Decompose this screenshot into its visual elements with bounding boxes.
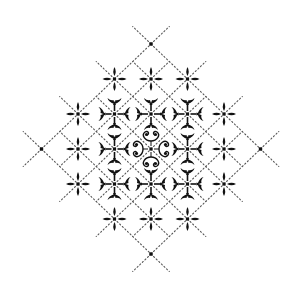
dotted-line — [96, 97, 114, 115]
dotted-line — [224, 97, 242, 115]
dotted-line — [133, 254, 151, 272]
dotted-line — [133, 27, 151, 45]
dotted-line — [261, 149, 279, 167]
dotted-line — [224, 149, 242, 167]
dotted-line — [133, 219, 151, 237]
dotted-line — [188, 97, 206, 115]
center-dot — [259, 147, 262, 150]
lattice-pattern — [0, 0, 298, 292]
dotted-line — [261, 132, 279, 150]
dotted-line — [151, 219, 169, 237]
dotted-line — [23, 132, 41, 150]
center-dot — [149, 42, 152, 45]
dotted-line — [60, 97, 78, 115]
dotted-line — [188, 62, 206, 80]
dotted-line — [151, 254, 169, 272]
center-dot — [40, 147, 43, 150]
dotted-line — [224, 132, 242, 150]
pattern-canvas: Rangoli / kolam dot-lattice pattern — [0, 0, 298, 292]
dotted-line — [133, 62, 151, 80]
dotted-line — [188, 219, 206, 237]
dotted-line — [188, 184, 206, 202]
dotted-line — [151, 62, 169, 80]
motifs — [40, 42, 262, 255]
dotted-line — [96, 184, 114, 202]
dotted-line — [224, 184, 242, 202]
dotted-line — [60, 132, 78, 150]
dotted-line — [60, 184, 78, 202]
dotted-line — [23, 149, 41, 167]
dotted-line — [96, 219, 114, 237]
dotted-line — [60, 149, 78, 167]
dotted-line — [96, 62, 114, 80]
center-dot — [149, 252, 152, 255]
dotted-line — [151, 27, 169, 45]
